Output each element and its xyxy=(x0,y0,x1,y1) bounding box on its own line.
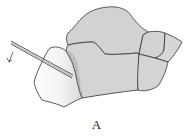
figure-label: A xyxy=(0,117,189,133)
direction-arrow-icon xyxy=(7,52,13,62)
